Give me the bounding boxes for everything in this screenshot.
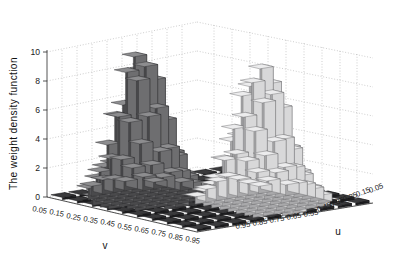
u-tick-2: 0.75 [269, 214, 285, 225]
v-tick-2: 0.25 [66, 211, 82, 223]
z-axis-title: The weight density function [8, 57, 19, 190]
v-tick-1: 0.15 [49, 207, 65, 219]
v-tick-6: 0.65 [134, 224, 150, 236]
z-tick-6: 6 [35, 105, 40, 115]
v-tick-3: 0.35 [83, 214, 99, 226]
u-axis-title: u [335, 226, 341, 237]
u-tick-1: 0.85 [252, 217, 268, 228]
bar3-plot: 0 2 4 6 8 10 The weight density function… [0, 0, 397, 261]
v-tick-5: 0.55 [117, 221, 133, 233]
z-axis-ticks: 0 2 4 6 8 10 [30, 47, 47, 202]
u-tick-3: 0.65 [286, 211, 302, 222]
v-axis-title: v [103, 240, 108, 251]
v-tick-8: 0.85 [168, 231, 184, 243]
z-tick-8: 8 [35, 76, 40, 86]
z-tick-10: 10 [30, 47, 40, 57]
v-tick-7: 0.75 [151, 227, 167, 239]
v-tick-0: 0.05 [32, 204, 48, 216]
right-mode-bars [77, 52, 209, 211]
v-tick-9: 0.95 [185, 234, 201, 246]
figure-canvas: 0 2 4 6 8 10 The weight density function… [0, 0, 397, 261]
v-tick-4: 0.45 [100, 217, 116, 229]
z-tick-4: 4 [35, 134, 40, 144]
z-tick-2: 2 [35, 163, 40, 173]
u-tick-9: 0.05 [367, 181, 384, 195]
left-mode-bars [184, 64, 332, 218]
z-tick-0: 0 [35, 192, 40, 202]
u-tick-0: 0.95 [235, 220, 251, 231]
